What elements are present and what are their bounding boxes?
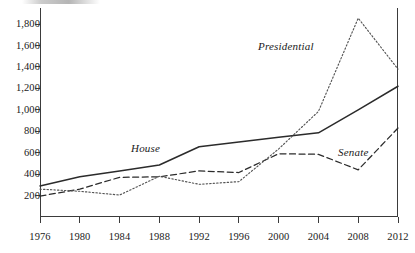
line-chart: 2004006008001,0001,2001,4001,6001,800 19… (0, 0, 415, 253)
series-line-house (40, 86, 398, 186)
series-label-presidential: Presidential (258, 40, 314, 52)
series-layer (0, 0, 415, 253)
series-line-senate (40, 128, 398, 196)
series-line-presidential (40, 18, 398, 195)
series-label-senate: Senate (338, 146, 369, 158)
series-label-house: House (131, 142, 160, 154)
